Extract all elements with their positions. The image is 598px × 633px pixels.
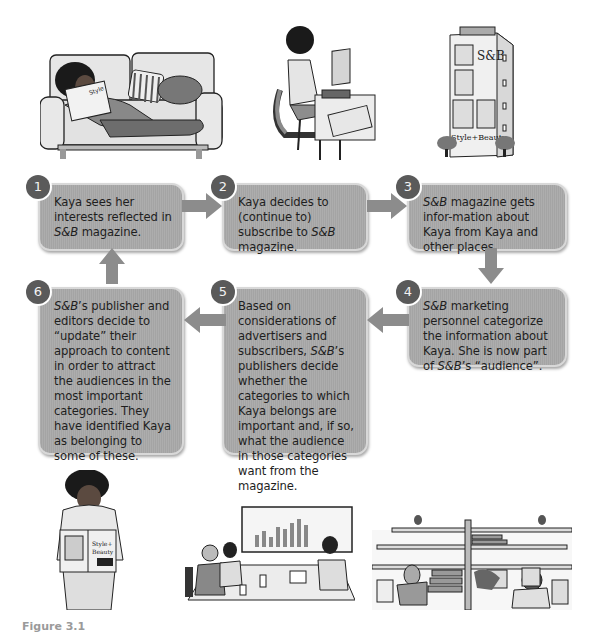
step-text: ’s “audience”.	[462, 359, 543, 373]
woman-at-laptop-illustration	[270, 20, 380, 160]
arrow-6-to-1	[99, 248, 125, 284]
magazine-name-italic: S&B	[311, 344, 335, 358]
step-4-number-badge: 4	[396, 280, 420, 304]
magazine-name-italic: S&B	[54, 299, 78, 313]
step-3-number-badge: 3	[396, 175, 420, 199]
step-1-number-badge: 1	[26, 175, 50, 199]
step-text: magazine.	[78, 225, 141, 239]
svg-text:Beauty: Beauty	[92, 548, 114, 556]
arrow-5-to-6	[184, 307, 226, 333]
magazine-name-italic: S&B	[54, 225, 78, 239]
meeting-with-chart-illustration	[180, 505, 355, 605]
step-text: magazine.	[238, 240, 297, 254]
magazine-name-italic: S&B	[311, 225, 335, 239]
magazine-name-italic: S&B	[423, 299, 447, 313]
office-cubicles-illustration	[372, 510, 572, 610]
arrow-3-to-4	[478, 248, 504, 284]
svg-text:Style+: Style+	[92, 540, 112, 548]
building-sign-top: S&B	[477, 49, 505, 63]
step-6-number-badge: 6	[26, 280, 50, 304]
woman-holding-magazine-illustration: Style+ Beauty	[45, 470, 135, 610]
figure-caption: Figure 3.1	[22, 620, 85, 633]
woman-reading-on-sofa-illustration: Style	[40, 45, 225, 160]
step-text: ’s publishers decide whether the categor…	[238, 344, 354, 493]
step-2-number-badge: 2	[211, 175, 235, 199]
magazine-office-building-illustration: S&B Style+Beauty	[435, 25, 525, 160]
step-text: ’s publisher and editors decide to “upda…	[54, 299, 171, 463]
arrow-4-to-5	[367, 307, 409, 333]
step-text: Kaya sees her interests reflected in	[54, 195, 172, 224]
step-3-box: S&B magazine gets infor-mation about Kay…	[407, 183, 567, 251]
step-6-box: S&B’s publisher and editors decide to “u…	[38, 287, 184, 455]
step-5-number-badge: 5	[211, 280, 235, 304]
magazine-name-italic: S&B	[423, 195, 447, 209]
step-2-box: Kaya decides to (continue to) subscribe …	[222, 183, 368, 251]
magazine-name-italic: S&B	[438, 359, 462, 373]
step-4-box: S&B marketing personnel categorize the i…	[407, 287, 567, 367]
step-1-box: Kaya sees her interests reflected in S&B…	[38, 183, 184, 251]
step-5-box: Based on considerations of advertisers a…	[222, 287, 368, 455]
